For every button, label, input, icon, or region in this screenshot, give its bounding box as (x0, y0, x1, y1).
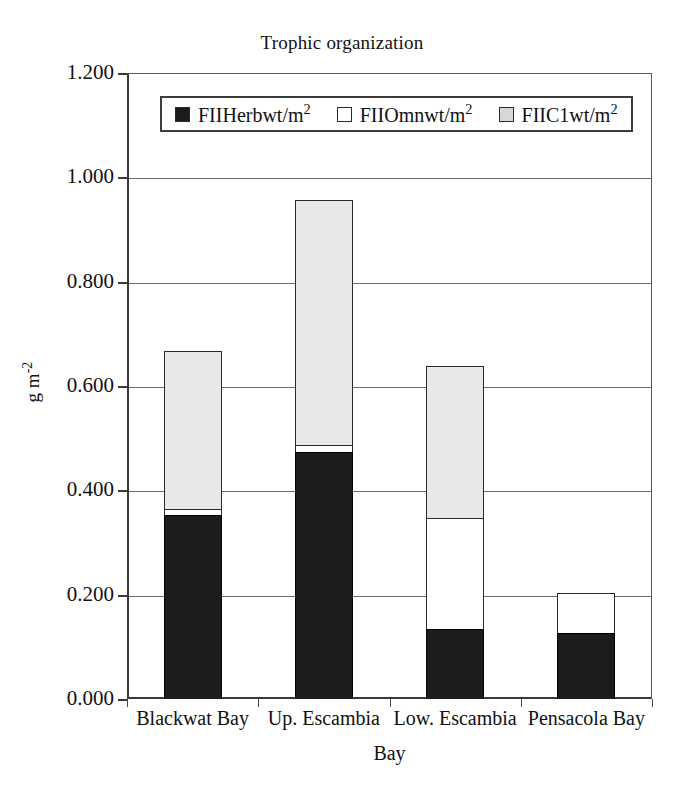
bar-stack[interactable] (557, 593, 615, 699)
gridline-y (129, 178, 651, 179)
chart-figure: Trophic organization g m-2 0.0000.2000.4… (0, 0, 684, 800)
y-axis-tick-label: 0.600 (4, 375, 114, 396)
bar-segment-omnivore[interactable] (426, 518, 484, 629)
y-axis-tick-mark (118, 699, 127, 701)
bar-stack[interactable] (426, 366, 484, 699)
bar-segment-herbivore[interactable] (426, 629, 484, 699)
y-axis-tick-mark (118, 490, 127, 492)
bar-segment-carnivore[interactable] (164, 351, 222, 509)
x-axis-tick-mark (258, 699, 259, 707)
legend-swatch-omnivore (337, 107, 352, 122)
bar-stack[interactable] (295, 200, 353, 699)
legend-entry[interactable]: FIIC1wt/m2 (499, 101, 618, 127)
x-axis-tick-label: Blackwat Bay (121, 707, 264, 730)
bar-stack[interactable] (164, 351, 222, 699)
x-axis-tick-mark (390, 699, 391, 707)
bar-segment-omnivore[interactable] (295, 445, 353, 452)
bar-segment-carnivore[interactable] (426, 366, 484, 518)
x-axis-tick-mark (127, 699, 128, 707)
x-axis-tick-label: Pensacola Bay (515, 707, 658, 730)
x-axis-tick-label: Up. Escambia (252, 707, 395, 730)
legend-label: FIIC1wt/m2 (522, 101, 618, 127)
legend-entry[interactable]: FIIOmnwt/m2 (337, 101, 473, 127)
y-axis-tick-label: 0.800 (4, 271, 114, 292)
gridline-y (129, 283, 651, 284)
bar-segment-herbivore[interactable] (557, 633, 615, 699)
legend-label: FIIHerbwt/m2 (198, 101, 311, 127)
y-axis-tick-label: 0.200 (4, 584, 114, 605)
y-axis-tick-mark (118, 177, 127, 179)
bar-segment-omnivore[interactable] (557, 593, 615, 633)
legend-swatch-herbivore (175, 107, 190, 122)
legend-entry[interactable]: FIIHerbwt/m2 (175, 101, 311, 127)
chart-legend: FIIHerbwt/m2FIIOmnwt/m2FIIC1wt/m2 (160, 96, 633, 132)
y-axis-tick-mark (118, 73, 127, 75)
x-axis-title: Bay (127, 742, 652, 765)
legend-label: FIIOmnwt/m2 (360, 101, 473, 127)
y-axis-tick-label: 0.000 (4, 688, 114, 709)
y-axis-tick-labels: 0.0000.2000.4000.6000.8001.0001.200 (0, 0, 114, 800)
y-axis-tick-mark (118, 282, 127, 284)
y-axis-tick-mark (118, 595, 127, 597)
bar-segment-herbivore[interactable] (295, 452, 353, 699)
x-axis-tick-mark (652, 699, 653, 707)
x-axis-tick-label: Low. Escambia (384, 707, 527, 730)
legend-swatch-carnivore (499, 107, 514, 122)
y-axis-tick-label: 1.000 (4, 166, 114, 187)
y-axis-tick-label: 1.200 (4, 62, 114, 83)
x-axis-tick-mark (521, 699, 522, 707)
bar-segment-carnivore[interactable] (295, 200, 353, 445)
y-axis-tick-mark (118, 386, 127, 388)
bar-segment-herbivore[interactable] (164, 515, 222, 699)
bar-segment-omnivore[interactable] (164, 509, 222, 515)
y-axis-tick-label: 0.400 (4, 479, 114, 500)
